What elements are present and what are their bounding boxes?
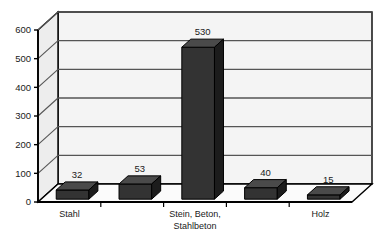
x-axis-category-label: Stahlbeton <box>173 221 216 231</box>
bar-value-label: 15 <box>323 174 334 185</box>
bar-column <box>56 182 98 199</box>
bar-value-label: 53 <box>135 163 146 174</box>
bar-side-face <box>214 39 223 199</box>
y-axis-tick-label: 400 <box>15 82 31 93</box>
x-axis-category-label: Stein, Beton, <box>169 209 221 219</box>
bar-front-face <box>307 195 340 199</box>
x-axis-category-label: Holz <box>312 209 331 219</box>
bar-front-face <box>245 188 278 199</box>
y-axis-tick-label: 300 <box>15 110 31 121</box>
bar-chart-3d: 0100200300400500600 32535304015 StahlSte… <box>0 0 388 240</box>
bar-column <box>119 176 161 199</box>
y-axis-tick-label: 100 <box>15 168 31 179</box>
y-axis-tick-label: 500 <box>15 53 31 64</box>
bar-value-label: 40 <box>260 167 271 178</box>
x-axis-category-label: Stahl <box>59 209 80 219</box>
y-axis-tick-label: 200 <box>15 139 31 150</box>
x-axis-category-labels: StahlStein, Beton,StahlbetonHolz <box>59 209 330 231</box>
y-axis-tick-labels: 0100200300400500600 <box>15 24 31 207</box>
bar-column <box>182 39 224 199</box>
bar-column <box>307 187 349 199</box>
bar-column <box>245 180 287 200</box>
bar-front-face <box>56 190 89 199</box>
chart-container: 0100200300400500600 32535304015 StahlSte… <box>0 0 388 240</box>
bar-front-face <box>182 47 215 199</box>
bar-value-label: 530 <box>195 26 211 37</box>
y-axis-tick-label: 600 <box>15 24 31 35</box>
bar-front-face <box>119 184 152 199</box>
bar-value-label: 32 <box>72 169 83 180</box>
y-axis-tick-label: 0 <box>26 196 31 207</box>
